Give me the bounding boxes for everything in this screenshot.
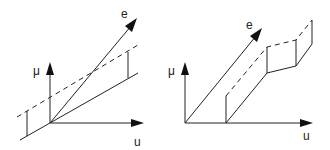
dashed-line-left (17, 45, 138, 117)
mu-label-left: μ (33, 64, 40, 78)
solid-line-left (20, 73, 138, 140)
dashed-path-right (226, 20, 312, 96)
u-label-left: u (134, 135, 141, 149)
u-arrowhead-icon (131, 119, 144, 127)
mu-arrowhead-icon (46, 62, 54, 75)
e-label-left: e (121, 7, 128, 21)
e-vector-left (50, 26, 131, 123)
mu-arrowhead-icon (181, 62, 189, 75)
diagram-canvas: μ e u μ e u (0, 0, 330, 150)
e-label-right: e (246, 18, 253, 32)
solid-path-right (226, 44, 312, 123)
u-label-right: u (303, 129, 310, 143)
right-panel: μ e u (168, 18, 313, 143)
mu-label-right: μ (168, 64, 175, 78)
u-arrowhead-icon (300, 119, 313, 127)
e-vector-right (185, 36, 256, 123)
left-panel: μ e u (17, 7, 144, 149)
